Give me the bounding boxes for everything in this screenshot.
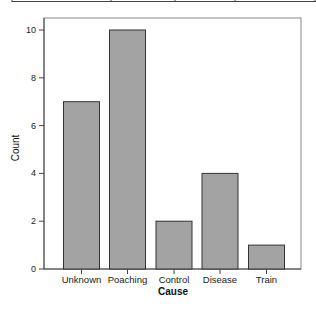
y-tick-label: 4 (31, 168, 36, 178)
y-tick-label: 6 (31, 121, 36, 131)
y-tick-label: 10 (26, 25, 36, 35)
x-ticks: UnknownPoachingControlDiseaseTrain (62, 269, 277, 285)
y-axis-title: Count (10, 134, 21, 161)
bar-control (156, 221, 192, 269)
x-category-label: Unknown (62, 274, 102, 285)
bar-unknown (64, 102, 100, 269)
bar-chart: 0246810 UnknownPoachingControlDiseaseTra… (0, 0, 316, 309)
y-tick-label: 8 (31, 73, 36, 83)
x-category-label: Poaching (108, 274, 148, 285)
bar-poaching (110, 30, 146, 269)
bar-train (249, 245, 285, 269)
bars-group (64, 30, 285, 269)
x-axis-title: Cause (158, 286, 188, 297)
x-category-label: Train (256, 274, 277, 285)
y-tick-label: 0 (31, 264, 36, 274)
y-ticks: 0246810 (26, 25, 44, 274)
y-tick-label: 2 (31, 216, 36, 226)
x-category-label: Disease (203, 274, 237, 285)
x-category-label: Control (159, 274, 190, 285)
bar-disease (202, 173, 238, 269)
